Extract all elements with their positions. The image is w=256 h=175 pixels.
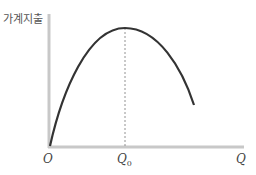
x-axis-label: Q bbox=[236, 152, 246, 166]
expenditure-diagram bbox=[0, 0, 256, 175]
expenditure-curve bbox=[50, 28, 194, 146]
origin-label: O bbox=[43, 152, 53, 166]
q0-label: Q0 bbox=[117, 152, 132, 168]
